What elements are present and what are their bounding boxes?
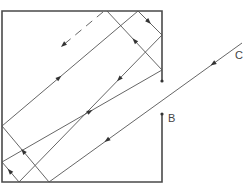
ray-right-to-bottom [19,35,162,182]
diagram-canvas: B C [0,0,245,184]
box-wall-main [2,11,162,182]
ray-left-to-right [2,70,162,162]
ray-incoming-c-arrow-icon [209,60,216,67]
ray-incoming-c-arrow-icon-2 [103,137,110,144]
ray-paths [2,11,242,182]
label-b: B [168,112,175,124]
opening-end-upper-dot [160,79,163,82]
ray-exit-dashed [62,12,103,46]
opening-end-b-dot [160,112,163,115]
ray-bottom-to-left [2,126,49,182]
ray-left-to-top [2,11,138,126]
label-c: C [235,49,243,61]
